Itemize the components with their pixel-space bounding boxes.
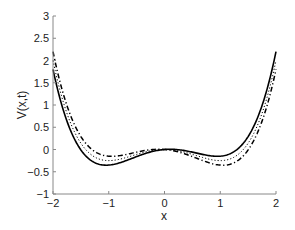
x-axis-label: x bbox=[161, 209, 167, 223]
y-tick-label: −1 bbox=[36, 188, 49, 200]
series-dash-dot bbox=[53, 52, 276, 166]
curves bbox=[53, 52, 276, 166]
x-tick-label: 1 bbox=[217, 197, 223, 209]
axis-labels: x V(x,t) bbox=[15, 91, 167, 223]
y-tick-label: 2.5 bbox=[34, 32, 49, 44]
x-tick-label: 0 bbox=[161, 197, 167, 209]
y-axis-label: V(x,t) bbox=[15, 91, 29, 120]
chart: −2−1012−1−0.500.511.522.53 x V(x,t) bbox=[0, 0, 295, 230]
y-tick-label: 0 bbox=[43, 144, 49, 156]
y-tick-label: 1.5 bbox=[34, 77, 49, 89]
series-solid bbox=[53, 52, 276, 166]
y-tick-label: 3 bbox=[43, 10, 49, 22]
series-dotted bbox=[53, 61, 276, 161]
x-tick-label: −1 bbox=[102, 197, 115, 209]
y-tick-label: 0.5 bbox=[34, 121, 49, 133]
y-tick-label: 2 bbox=[43, 55, 49, 67]
x-tick-label: 2 bbox=[273, 197, 279, 209]
y-tick-label: 1 bbox=[43, 99, 49, 111]
y-tick-label: −0.5 bbox=[27, 166, 49, 178]
axes: −2−1012−1−0.500.511.522.53 bbox=[27, 10, 279, 209]
